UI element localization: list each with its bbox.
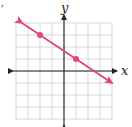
data-point (73, 56, 79, 62)
series (22, 23, 112, 83)
data-point (37, 32, 43, 38)
y-axis-label: y (60, 0, 69, 15)
series-line (22, 23, 112, 83)
axes (13, 15, 117, 125)
x-axis-label: x (121, 63, 129, 78)
coordinate-graph: x y (0, 0, 132, 127)
